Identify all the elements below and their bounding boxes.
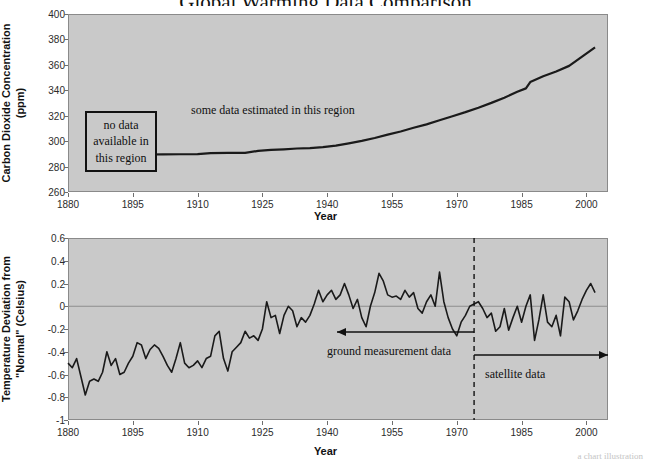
x-tick-mark	[586, 193, 587, 197]
x-tick-mark	[133, 421, 134, 425]
temperature-x-axis-title: Year	[0, 445, 651, 457]
satellite-data-arrow-head	[599, 351, 608, 359]
y-tick-mark	[64, 167, 68, 168]
x-tick-mark	[522, 193, 523, 197]
y-tick-mark	[64, 306, 68, 307]
co2-no-data-text: no dataavailable inthis region	[93, 117, 149, 166]
data-line	[146, 47, 595, 154]
x-tick-mark	[198, 193, 199, 197]
x-tick-mark	[262, 193, 263, 197]
y-tick-mark	[64, 329, 68, 330]
x-tick-mark	[457, 193, 458, 197]
x-tick-mark	[586, 421, 587, 425]
x-tick-mark	[522, 421, 523, 425]
y-tick-mark	[64, 65, 68, 66]
x-tick-mark	[68, 193, 69, 197]
y-tick-mark	[64, 116, 68, 117]
co2-chart: Carbon Dioxide Concentration(ppm) 260280…	[0, 0, 651, 231]
y-tick-mark	[64, 238, 68, 239]
x-tick-mark	[327, 421, 328, 425]
y-tick-mark	[64, 352, 68, 353]
x-tick-mark	[262, 421, 263, 425]
x-tick-mark	[133, 193, 134, 197]
y-tick-mark	[64, 261, 68, 262]
y-tick-mark	[64, 284, 68, 285]
ground-measurement-annotation: ground measurement data	[327, 344, 451, 359]
co2-x-axis-title: Year	[0, 210, 651, 222]
satellite-data-annotation: satellite data	[485, 367, 545, 382]
y-tick-mark	[64, 14, 68, 15]
y-tick-mark	[64, 39, 68, 40]
co2-no-data-annotation: no dataavailable inthis region	[85, 111, 157, 172]
y-tick-mark	[64, 397, 68, 398]
co2-estimated-annotation: some data estimated in this region	[191, 103, 355, 118]
y-tick-mark	[64, 141, 68, 142]
y-tick-mark	[64, 90, 68, 91]
x-tick-mark	[68, 421, 69, 425]
x-tick-mark	[457, 421, 458, 425]
y-tick-mark	[64, 375, 68, 376]
x-tick-mark	[392, 193, 393, 197]
x-tick-mark	[327, 193, 328, 197]
x-tick-mark	[392, 421, 393, 425]
temperature-chart: Temperature Deviation from"Normal" (Cels…	[0, 231, 651, 459]
temperature-line-series	[0, 231, 651, 459]
credit-text: a chart illustration	[578, 451, 643, 459]
x-tick-mark	[198, 421, 199, 425]
ground-data-arrow-head	[337, 328, 346, 336]
